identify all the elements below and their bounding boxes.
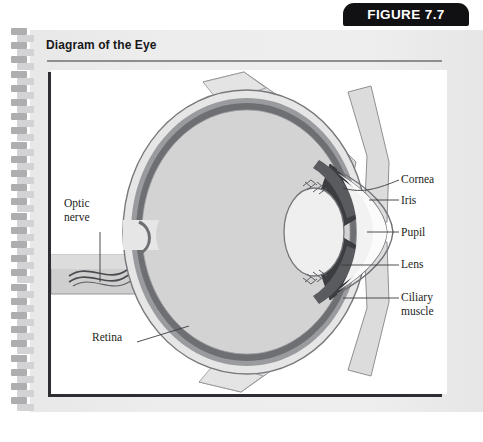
label-retina: Retina	[92, 330, 122, 344]
binding-ring	[17, 78, 34, 85]
binding-ring	[11, 142, 27, 149]
binding-ring	[17, 205, 34, 212]
binding-ring	[11, 71, 27, 78]
label-lens: Lens	[401, 257, 423, 271]
binding-ring	[17, 35, 34, 42]
binding-ring	[11, 269, 27, 276]
label-iris: Iris	[401, 193, 416, 207]
binding-ring	[11, 241, 27, 248]
binding-ring	[17, 191, 34, 198]
binding-ring	[11, 312, 27, 319]
binding-ring	[11, 397, 27, 404]
lens	[284, 188, 344, 276]
label-optic-nerve: Optic nerve	[64, 196, 90, 225]
binding-ring	[17, 276, 34, 283]
binding-ring	[17, 347, 34, 354]
binding-ring	[11, 184, 27, 191]
binding-ring	[11, 383, 27, 390]
title-divider	[47, 60, 442, 62]
binding-ring	[17, 177, 34, 184]
binding-ring	[17, 262, 34, 269]
spiral-binding	[9, 28, 35, 418]
binding-ring	[17, 291, 34, 298]
label-cornea: Cornea	[401, 172, 434, 186]
binding-ring	[17, 390, 34, 397]
binding-ring	[17, 319, 34, 326]
binding-ring	[11, 227, 27, 234]
binding-ring	[11, 326, 27, 333]
binding-ring	[11, 156, 27, 163]
binding-ring	[11, 28, 27, 35]
binding-ring	[17, 248, 34, 255]
binding-ring	[11, 127, 27, 134]
binding-ring	[17, 234, 34, 241]
binding-ring	[17, 106, 34, 113]
binding-ring	[11, 255, 27, 262]
binding-ring	[17, 134, 34, 141]
binding-ring	[11, 42, 27, 49]
figure-number-tab: FIGURE 7.7	[343, 3, 469, 26]
binding-ring	[17, 163, 34, 170]
binding-ring	[17, 149, 34, 156]
binding-ring	[11, 99, 27, 106]
binding-ring	[11, 170, 27, 177]
binding-ring	[11, 298, 27, 305]
binding-ring	[11, 284, 27, 291]
binding-ring	[17, 63, 34, 70]
label-ciliary-muscle: Ciliary muscle	[401, 290, 434, 319]
binding-ring	[11, 213, 27, 220]
binding-ring	[17, 333, 34, 340]
binding-ring	[11, 85, 27, 92]
binding-ring	[17, 220, 34, 227]
label-optic-nerve-line2: nerve	[64, 211, 90, 223]
binding-ring	[17, 120, 34, 127]
binding-ring	[17, 305, 34, 312]
binding-ring	[17, 376, 34, 383]
binding-ring	[11, 340, 27, 347]
figure-title: Diagram of the Eye	[46, 38, 157, 52]
binding-ring	[11, 369, 27, 376]
binding-ring	[17, 92, 34, 99]
binding-ring	[11, 56, 27, 63]
binding-ring	[11, 355, 27, 362]
label-ciliary-muscle-line1: Ciliary	[401, 291, 433, 303]
binding-ring	[11, 198, 27, 205]
label-ciliary-muscle-line2: muscle	[401, 305, 434, 317]
binding-ring	[11, 113, 27, 120]
binding-ring	[17, 49, 34, 56]
label-optic-nerve-line1: Optic	[64, 197, 90, 209]
binding-ring	[17, 404, 34, 411]
diagram-canvas	[51, 70, 447, 394]
binding-ring	[17, 362, 34, 369]
label-pupil: Pupil	[401, 225, 425, 239]
eye-cross-section-illustration	[51, 70, 447, 394]
